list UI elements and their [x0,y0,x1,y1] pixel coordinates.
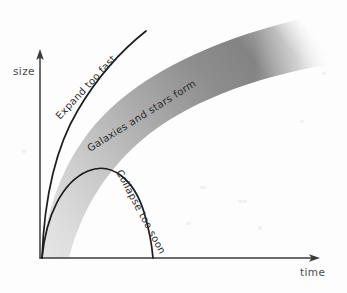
x-axis-label: time [300,266,325,278]
y-axis-label: size [13,65,35,77]
curve-galaxies-and-stars-form [41,14,330,258]
diagram-canvas: size time Expand too fast Galaxies and s… [0,0,347,293]
cosmology-expansion-diagram: size time Expand too fast Galaxies and s… [0,0,347,293]
curve-label-collapse-too-soon: Collapse too soon [114,168,168,256]
